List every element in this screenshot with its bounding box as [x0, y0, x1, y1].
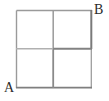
top-left-quadrant	[16, 10, 53, 49]
square-grid-drawing	[0, 0, 109, 101]
vertex-label-b: B	[94, 3, 103, 17]
bottom-left-quadrant	[16, 49, 53, 88]
bottom-right-quadrant	[53, 49, 92, 88]
vertex-label-a: A	[4, 81, 14, 95]
top-right-quadrant	[53, 10, 92, 49]
geometry-figure: A B	[0, 0, 109, 101]
